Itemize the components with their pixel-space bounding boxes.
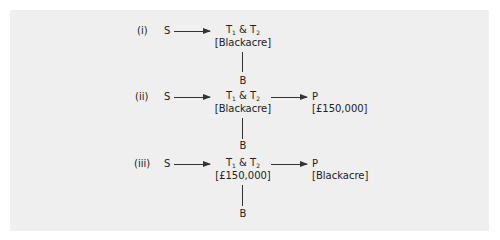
purchaser-consideration: [£150,000] xyxy=(312,103,368,115)
trustees-node: T1 & T2 xyxy=(226,157,260,169)
purchaser-node: P xyxy=(312,91,318,103)
arrow-right-icon xyxy=(271,164,307,165)
source-node: S xyxy=(164,91,170,103)
arrow-right-icon xyxy=(174,164,210,165)
beneficiary-line xyxy=(242,185,243,206)
row-label: (ii) xyxy=(135,91,148,103)
source-node: S xyxy=(164,158,170,170)
trustees-node: T1 & T2 xyxy=(226,24,260,36)
beneficiary-node: B xyxy=(240,140,247,152)
beneficiary-node: B xyxy=(240,75,247,87)
beneficiary-line xyxy=(242,118,243,139)
purchaser-node: P xyxy=(312,158,318,170)
beneficiary-node: B xyxy=(240,208,247,220)
beneficiary-line xyxy=(242,52,243,72)
trust-property: [Blackacre] xyxy=(215,37,271,49)
arrow-right-icon xyxy=(271,97,307,98)
arrow-right-icon xyxy=(174,97,210,98)
trust-property: [£150,000] xyxy=(215,170,271,182)
row-label: (iii) xyxy=(134,158,150,170)
arrow-right-icon xyxy=(174,31,210,32)
row-label: (i) xyxy=(137,25,148,37)
trust-property: [Blackacre] xyxy=(215,103,271,115)
purchaser-consideration: [Blackacre] xyxy=(312,170,368,182)
trustees-node: T1 & T2 xyxy=(226,90,260,102)
source-node: S xyxy=(164,25,170,37)
